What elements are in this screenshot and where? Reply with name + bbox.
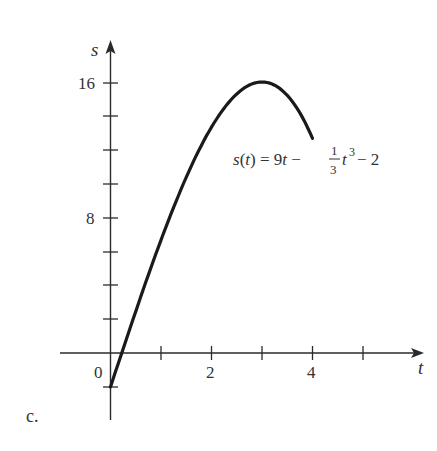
y-tick-label-8: 8 (86, 209, 95, 228)
x-axis-label: t (418, 357, 424, 378)
frac-var: t (342, 150, 348, 169)
frac-denominator: 3 (330, 162, 337, 177)
function-curve (111, 82, 313, 387)
chart: s t 0 2 4 8 16 c. s(t) = 9t − 1 3 t 3 − … (0, 0, 437, 451)
frac-numerator: 1 (331, 143, 338, 158)
function-annotation: s(t) = 9t − 1 3 t 3 − 2 (233, 143, 379, 177)
x-tick-label-4: 4 (307, 363, 316, 382)
svg-text:s(t) = 9t −: s(t) = 9t − (233, 150, 301, 169)
panel-label: c. (26, 406, 39, 426)
origin-label: 0 (94, 363, 103, 382)
axes (60, 48, 418, 420)
y-tick-label-16: 16 (78, 74, 95, 93)
y-axis-label: s (91, 39, 98, 60)
formula-suffix: − 2 (357, 150, 379, 169)
exponent: 3 (349, 145, 355, 159)
x-tick-label-2: 2 (206, 363, 215, 382)
